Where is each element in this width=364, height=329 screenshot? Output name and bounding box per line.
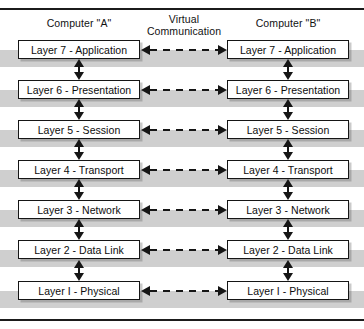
column-heading-computer-a: Computer "A" (18, 17, 140, 29)
layer-box-computer-a-layer-3: Layer 3 - Network (18, 200, 140, 219)
virtual-communication-arrow-layer-2 (141, 244, 227, 255)
arrow-head-left-icon (141, 205, 150, 215)
column-heading-computer-b: Computer "B" (227, 17, 349, 29)
layer-box-computer-a-layer-2: Layer 2 - Data Link (18, 240, 140, 259)
arrow-head-left-icon (141, 286, 150, 296)
arrow-head-right-icon (218, 125, 227, 135)
layer-box-computer-a-layer-6: Layer 6 - Presentation (18, 80, 140, 99)
arrow-head-left-icon (141, 125, 150, 135)
arrow-head-left-icon (141, 165, 150, 175)
dashed-line (150, 290, 218, 292)
arrow-head-down-icon (74, 192, 84, 200)
arrow-head-down-icon (74, 112, 84, 120)
layer-box-computer-a-layer-1: Layer I - Physical (18, 281, 140, 300)
interlayer-arrow-computer-b-6-5 (282, 99, 293, 120)
layer-box-computer-b-layer-3: Layer 3 - Network (227, 200, 349, 219)
dashed-line (150, 49, 218, 51)
layer-box-computer-a-layer-7: Layer 7 - Application (18, 40, 140, 59)
arrow-head-down-icon (283, 232, 293, 240)
dashed-line (150, 89, 218, 91)
layer-box-computer-a-layer-5: Layer 5 - Session (18, 120, 140, 139)
virtual-communication-arrow-layer-3 (141, 204, 227, 215)
layer-box-computer-b-layer-1: Layer I - Physical (227, 281, 349, 300)
virtual-communication-arrow-layer-6 (141, 84, 227, 95)
column-heading-virtual-communication: Virtual Communication (142, 13, 226, 37)
layer-box-computer-b-layer-4: Layer 4 - Transport (227, 160, 349, 179)
arrow-head-down-icon (74, 232, 84, 240)
interlayer-arrow-computer-a-2-1 (73, 260, 84, 281)
interlayer-arrow-computer-b-3-2 (282, 219, 293, 240)
arrow-head-right-icon (218, 85, 227, 95)
virtual-communication-arrow-layer-5 (141, 124, 227, 135)
layer-box-computer-b-layer-7: Layer 7 - Application (227, 40, 349, 59)
layer-box-computer-b-layer-6: Layer 6 - Presentation (227, 80, 349, 99)
layer-box-computer-b-layer-5: Layer 5 - Session (227, 120, 349, 139)
arrow-head-down-icon (283, 112, 293, 120)
dashed-line (150, 209, 218, 211)
osi-model-diagram: Computer "A" Virtual Communication Compu… (0, 0, 364, 329)
interlayer-arrow-computer-a-6-5 (73, 99, 84, 120)
arrow-head-down-icon (74, 72, 84, 80)
arrow-head-left-icon (141, 85, 150, 95)
interlayer-arrow-computer-a-5-4 (73, 139, 84, 160)
arrow-head-down-icon (74, 273, 84, 281)
virtual-communication-arrow-layer-4 (141, 164, 227, 175)
interlayer-arrow-computer-b-7-6 (282, 59, 293, 80)
arrow-head-right-icon (218, 165, 227, 175)
interlayer-arrow-computer-b-5-4 (282, 139, 293, 160)
virtual-communication-line2: Communication (142, 25, 226, 37)
arrow-head-down-icon (74, 152, 84, 160)
arrow-head-right-icon (218, 245, 227, 255)
virtual-communication-arrow-layer-1 (141, 285, 227, 296)
arrow-head-right-icon (218, 205, 227, 215)
virtual-communication-line1: Virtual (142, 13, 226, 25)
arrow-head-down-icon (283, 152, 293, 160)
interlayer-arrow-computer-a-7-6 (73, 59, 84, 80)
interlayer-arrow-computer-a-4-3 (73, 179, 84, 200)
frame-top-rule (0, 8, 364, 10)
arrow-head-down-icon (283, 72, 293, 80)
arrow-head-down-icon (283, 273, 293, 281)
interlayer-arrow-computer-b-4-3 (282, 179, 293, 200)
interlayer-arrow-computer-a-3-2 (73, 219, 84, 240)
virtual-communication-arrow-layer-7 (141, 44, 227, 55)
layer-box-computer-b-layer-2: Layer 2 - Data Link (227, 240, 349, 259)
frame-bottom-rule (0, 319, 364, 321)
dashed-line (150, 129, 218, 131)
layer-box-computer-a-layer-4: Layer 4 - Transport (18, 160, 140, 179)
dashed-line (150, 249, 218, 251)
arrow-head-right-icon (218, 45, 227, 55)
arrow-head-down-icon (283, 192, 293, 200)
arrow-head-right-icon (218, 286, 227, 296)
arrow-head-left-icon (141, 45, 150, 55)
interlayer-arrow-computer-b-2-1 (282, 260, 293, 281)
dashed-line (150, 169, 218, 171)
arrow-head-left-icon (141, 245, 150, 255)
